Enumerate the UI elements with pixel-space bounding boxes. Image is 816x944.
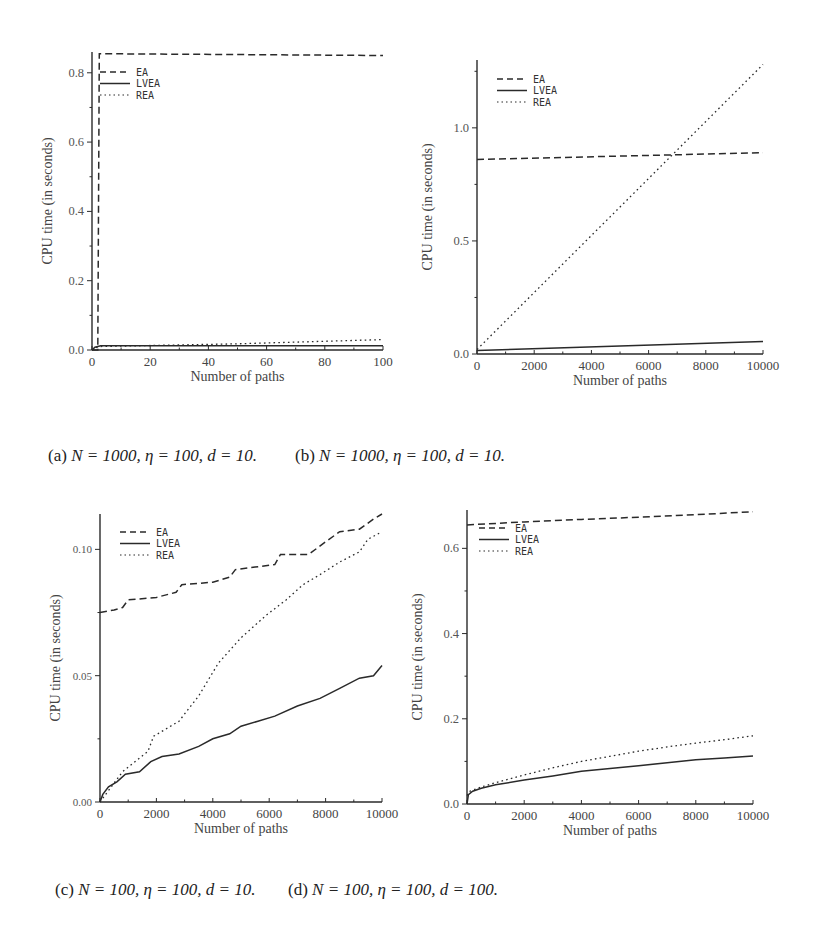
legend-rea-label: REA (136, 90, 154, 101)
y-tick-label: 0.10 (73, 543, 93, 555)
x-tick-label: 2000 (143, 806, 169, 821)
x-tick-label: 0 (474, 358, 481, 373)
x-tick-label: 8000 (693, 358, 719, 373)
x-tick-label: 10000 (747, 358, 780, 373)
y-axis-label: CPU time (in seconds) (40, 137, 56, 264)
y-tick-label: 0.4 (68, 204, 84, 218)
y-axis-label: CPU time (in seconds) (410, 593, 426, 720)
legend-ea-label: EA (156, 527, 168, 538)
x-tick-label: 4000 (200, 806, 226, 821)
legend-rea-label: REA (515, 546, 533, 557)
legend: EALVEAREA (497, 74, 557, 108)
series-lvea-line (100, 666, 382, 802)
legend-rea-label: REA (533, 97, 551, 108)
series-ea-line (100, 514, 382, 613)
x-tick-label: 0 (89, 354, 96, 369)
y-tick-label: 0.0 (453, 347, 469, 361)
x-axis-label: Number of paths (573, 373, 667, 388)
x-axis-label: Number of paths (190, 369, 284, 384)
y-tick-label: 0.00 (73, 796, 93, 808)
caption-text: N = 1000, η = 100, d = 10. (319, 446, 505, 465)
y-tick-label: 0.8 (68, 66, 84, 80)
legend-ea-label: EA (136, 67, 148, 78)
caption-a: (a) N = 1000, η = 100, d = 10. (48, 446, 257, 466)
series-ea-line (467, 512, 753, 525)
y-tick-label: 0.6 (443, 541, 459, 555)
x-tick-label: 8000 (683, 808, 709, 823)
x-tick-label: 0 (97, 806, 104, 821)
x-tick-label: 2000 (521, 358, 547, 373)
caption-c: (c) N = 100, η = 100, d = 10. (55, 880, 256, 900)
x-tick-label: 80 (318, 354, 331, 369)
legend-ea-label: EA (515, 523, 527, 534)
x-axis-label: Number of paths (194, 821, 288, 836)
figure-canvas: 0204060801000.00.20.40.60.8Number of pat… (0, 0, 816, 944)
x-tick-label: 4000 (578, 358, 604, 373)
x-tick-label: 0 (464, 808, 471, 823)
y-axis-label: CPU time (in seconds) (420, 143, 436, 270)
y-tick-label: 0.2 (443, 712, 459, 726)
x-tick-label: 6000 (636, 358, 662, 373)
x-tick-label: 60 (260, 354, 273, 369)
caption-text: N = 1000, η = 100, d = 10. (71, 446, 257, 465)
legend-lvea-label: LVEA (136, 78, 160, 89)
chart-a: 0204060801000.00.20.40.60.8Number of pat… (40, 52, 393, 384)
caption-text: N = 100, η = 100, d = 10. (78, 880, 255, 899)
legend-ea-label: EA (533, 74, 545, 85)
series-rea-line (477, 65, 763, 350)
series-rea-line (100, 532, 382, 802)
x-axis-label: Number of paths (563, 823, 657, 838)
y-tick-label: 0.5 (453, 234, 469, 248)
series-lvea-line (467, 756, 753, 804)
caption-text: N = 100, η = 100, d = 100. (312, 880, 498, 899)
x-tick-label: 10000 (737, 808, 770, 823)
series-lvea-line (477, 342, 763, 351)
legend: EALVEAREA (120, 527, 180, 561)
y-axis-label: CPU time (in seconds) (48, 594, 64, 721)
caption-label: (b) (295, 446, 319, 465)
caption-d: (d) N = 100, η = 100, d = 100. (288, 880, 498, 900)
y-tick-label: 0.0 (443, 797, 459, 811)
y-tick-label: 0.0 (68, 343, 84, 357)
x-tick-label: 2000 (511, 808, 537, 823)
caption-label: (a) (48, 446, 71, 465)
x-tick-label: 40 (202, 354, 215, 369)
x-tick-label: 6000 (256, 806, 282, 821)
chart-b: 02000400060008000100000.00.51.0Number of… (420, 60, 779, 388)
series-ea-line (477, 153, 763, 160)
y-tick-label: 0.05 (73, 670, 93, 682)
x-tick-label: 6000 (626, 808, 652, 823)
legend: EALVEAREA (479, 523, 539, 557)
chart-d: 02000400060008000100000.00.20.40.6Number… (410, 510, 769, 838)
legend-lvea-label: LVEA (156, 538, 180, 549)
series-rea-line (467, 736, 753, 796)
caption-label: (c) (55, 880, 78, 899)
x-tick-label: 4000 (568, 808, 594, 823)
x-tick-label: 8000 (313, 806, 339, 821)
caption-b: (b) N = 1000, η = 100, d = 10. (295, 446, 505, 466)
y-tick-label: 0.4 (443, 627, 459, 641)
y-tick-label: 0.6 (68, 135, 84, 149)
x-tick-label: 100 (373, 354, 393, 369)
y-tick-label: 0.2 (68, 274, 84, 288)
legend-rea-label: REA (156, 550, 174, 561)
y-tick-label: 1.0 (453, 121, 469, 135)
caption-label: (d) (288, 880, 312, 899)
x-tick-label: 20 (144, 354, 157, 369)
chart-c: 02000400060008000100000.000.050.10Number… (48, 514, 398, 836)
legend: EALVEAREA (100, 67, 160, 101)
x-tick-label: 10000 (366, 806, 399, 821)
legend-lvea-label: LVEA (515, 534, 539, 545)
legend-lvea-label: LVEA (533, 85, 557, 96)
